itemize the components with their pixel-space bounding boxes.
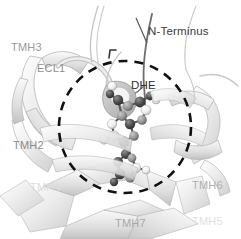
label-tmh7: TMH7 xyxy=(115,218,146,229)
label-tmh4: TMH4 xyxy=(30,182,61,193)
label-tmh2: TMH2 xyxy=(13,140,44,151)
n-terminus-leader-line xyxy=(136,18,147,43)
ribbon-body-lower xyxy=(0,162,210,239)
label-n-terminus: N-Terminus xyxy=(148,26,209,38)
label-tmh3: TMH3 xyxy=(11,42,42,53)
molecular-figure: TMH3 ECL1 N-Terminus DHE TMH2 TMH4 TMH6 … xyxy=(0,0,241,239)
label-tmh5: TMH5 xyxy=(192,216,223,227)
label-dhe-ligand: DHE xyxy=(131,80,156,92)
label-ecl1: ECL1 xyxy=(37,63,65,74)
label-tmh6: TMH6 xyxy=(192,180,223,191)
tick-mark xyxy=(109,50,116,58)
